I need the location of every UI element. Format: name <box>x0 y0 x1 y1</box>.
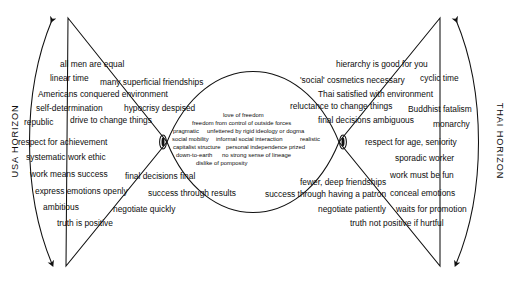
thai-value-item: fewer, deep friendships <box>300 178 386 186</box>
thai-value-item: reluctance to change things <box>290 102 392 110</box>
thai-value-item: sporadic worker <box>395 154 454 162</box>
usa-value-item: self-determination <box>36 104 103 112</box>
thai-value-item: monarchy <box>433 120 470 128</box>
thai-horizon-arrow <box>456 20 479 264</box>
shared-value-item: informal social interaction <box>216 137 282 143</box>
thai-value-item: 'social' cosmetics necessary <box>300 76 405 84</box>
thai-value-item: success through having a patron <box>265 190 386 198</box>
shared-value-item: pragmatic <box>173 129 199 135</box>
thai-value-item: work must be fun <box>390 171 454 179</box>
usa-value-item: Americans conquered environment <box>38 90 168 98</box>
usa-value-item: drive to change things <box>70 116 152 124</box>
shared-value-item: dislike of pomposity <box>196 161 247 167</box>
shared-value-item: capitalist structure <box>173 145 220 151</box>
usa-value-item: final decisions final <box>125 172 195 180</box>
usa-value-item: truth is positive <box>57 219 113 227</box>
usa-value-item: linear time <box>50 74 89 82</box>
thai-value-item: waits for promotion <box>396 205 467 213</box>
thai-value-item: truth not positive if hurtful <box>350 219 444 227</box>
shared-value-item: freedom from control of outside forces <box>192 121 291 127</box>
shared-value-item: unfettered by rigid ideology or dogma <box>207 129 304 135</box>
shared-value-item: realistic <box>300 137 320 143</box>
usa-value-item: many superficial friendships <box>100 78 203 86</box>
thai-value-item: conceal emotions <box>390 189 455 197</box>
shared-value-item: love of freedom <box>223 113 264 119</box>
thai-value-item: Buddhist fatalism <box>408 105 472 113</box>
thai-value-item: respect for age, seniority <box>365 138 457 146</box>
usa-value-item: respect for achievement <box>18 138 107 146</box>
usa-value-item: work means success <box>30 170 108 178</box>
usa-value-item: all men are equal <box>60 60 124 68</box>
usa-value-item: success through results <box>148 189 236 197</box>
diagram-canvas: USA HORIZON THAI HORIZON all men are equ… <box>0 0 506 285</box>
usa-value-item: negotiate quickly <box>113 205 175 213</box>
thai-value-item: cyclic time <box>420 74 459 82</box>
usa-value-item: hypocrisy despised <box>124 104 195 112</box>
usa-value-item: ambitious <box>43 203 79 211</box>
usa-value-item: republic <box>24 118 53 126</box>
thai-value-item: final decisions ambiguous <box>318 116 414 124</box>
usa-value-item: express emotions openly <box>35 187 128 195</box>
thai-value-item: Thai satisfied with environment <box>318 90 433 98</box>
thai-value-item: hierarchy is good for you <box>336 60 428 68</box>
usa-value-item: systematic work ethic <box>26 153 106 161</box>
shared-value-item: personal independence prized <box>226 145 305 151</box>
thai-horizon-label: THAI HORIZON <box>495 103 505 180</box>
shared-value-item: social mobility <box>172 137 209 143</box>
shared-value-item: down-to-earth <box>176 153 212 159</box>
thai-value-item: negotiate patiently <box>318 205 386 213</box>
shared-value-item: no strong sense of lineage <box>222 153 291 159</box>
